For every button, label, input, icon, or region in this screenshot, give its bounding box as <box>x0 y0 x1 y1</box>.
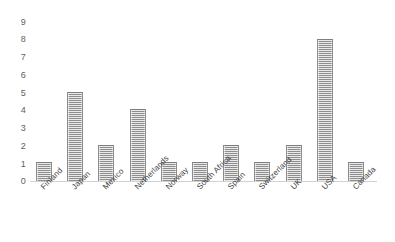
y-tick-label: 3 <box>0 124 26 133</box>
y-tick-label: 9 <box>0 18 26 27</box>
y-tick-label: 7 <box>0 53 26 62</box>
y-tick-label: 6 <box>0 71 26 80</box>
y-tick-label: 4 <box>0 106 26 115</box>
y-tick-label: 8 <box>0 35 26 44</box>
bar-chart: 9 8 7 6 5 4 3 2 1 0 Finland Japan Mexico… <box>0 0 395 242</box>
plot-area <box>32 22 380 181</box>
bar <box>317 39 333 181</box>
y-tick-label: 2 <box>0 142 26 151</box>
y-tick-label: 1 <box>0 160 26 169</box>
bar <box>130 109 146 181</box>
bar <box>67 92 83 181</box>
y-tick-label: 5 <box>0 89 26 98</box>
y-tick-label: 0 <box>0 177 26 186</box>
